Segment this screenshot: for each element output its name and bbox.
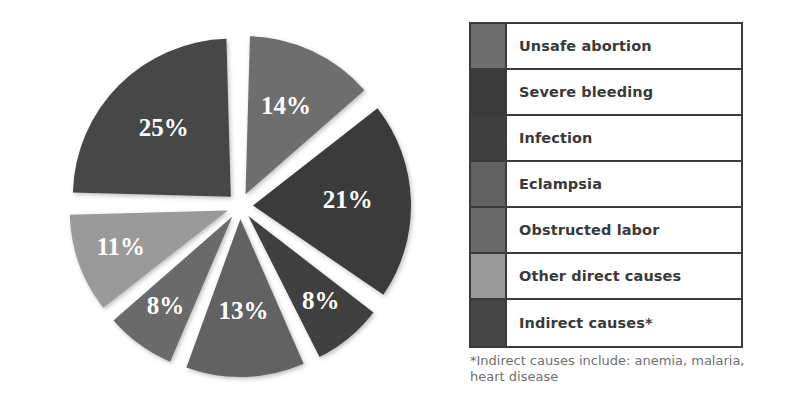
legend-row[interactable]: Severe bleeding	[471, 70, 741, 116]
pie-chart: 14%21%8%13%8%11%25%	[28, 8, 448, 408]
pie-slice-label: 8%	[147, 292, 185, 319]
legend: Unsafe abortionSevere bleedingInfectionE…	[469, 22, 743, 348]
legend-label: Unsafe abortion	[507, 24, 741, 68]
pie-slice-label: 8%	[302, 287, 340, 314]
footnote-text: *Indirect causes include: anemia, malari…	[470, 353, 745, 384]
legend-row[interactable]: Eclampsia	[471, 162, 741, 208]
legend-swatch-icon	[471, 116, 507, 160]
legend-label: Infection	[507, 116, 741, 160]
legend-label: Obstructed labor	[507, 208, 741, 252]
legend-label: Eclampsia	[507, 162, 741, 206]
pie-chart-figure: 14%21%8%13%8%11%25% Unsafe abortionSever…	[0, 0, 797, 419]
footnote: *Indirect causes include: anemia, malari…	[470, 353, 770, 386]
legend-row[interactable]: Infection	[471, 116, 741, 162]
pie-slice-label: 11%	[96, 233, 145, 260]
legend-label: Indirect causes*	[507, 300, 741, 346]
pie-slice-label: 13%	[218, 297, 268, 324]
legend-row[interactable]: Indirect causes*	[471, 300, 741, 346]
pie-slice-label: 21%	[323, 186, 373, 213]
legend-label: Other direct causes	[507, 254, 741, 298]
legend-label: Severe bleeding	[507, 70, 741, 114]
legend-swatch-icon	[471, 162, 507, 206]
pie-chart-svg: 14%21%8%13%8%11%25%	[28, 8, 448, 408]
legend-row[interactable]: Obstructed labor	[471, 208, 741, 254]
legend-swatch-icon	[471, 208, 507, 252]
legend-swatch-icon	[471, 24, 507, 68]
legend-swatch-icon	[471, 300, 507, 346]
pie-slice-label: 25%	[139, 114, 189, 141]
pie-slice-label: 14%	[261, 92, 311, 119]
legend-swatch-icon	[471, 70, 507, 114]
legend-row[interactable]: Other direct causes	[471, 254, 741, 300]
legend-swatch-icon	[471, 254, 507, 298]
legend-row[interactable]: Unsafe abortion	[471, 24, 741, 70]
